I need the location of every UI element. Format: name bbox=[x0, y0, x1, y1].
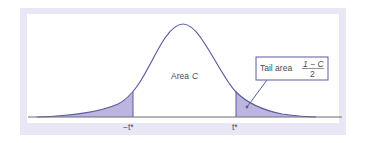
callout-denominator: 2 bbox=[310, 69, 315, 79]
callout-numerator: 1 − C bbox=[303, 59, 324, 69]
center-area-symbol: C bbox=[192, 71, 199, 81]
right-tick-label: t* bbox=[232, 122, 238, 132]
callout-text: Tail area bbox=[260, 63, 292, 73]
callout-pointer-dot bbox=[246, 106, 249, 109]
center-area-label: Area bbox=[171, 71, 189, 81]
t-distribution-diagram: Tail area 1 − C 2 Area C −t* t* bbox=[0, 0, 366, 143]
left-tick-label: −t* bbox=[123, 122, 134, 132]
